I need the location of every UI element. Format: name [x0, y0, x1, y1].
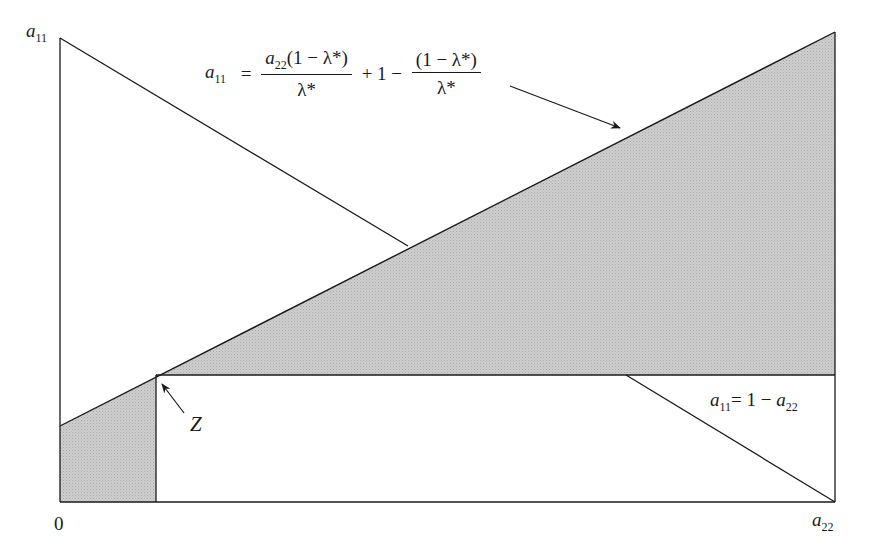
formula-middle-terms: + 1 − [357, 64, 407, 83]
fraction-2-denominator: λ* [412, 73, 481, 97]
formula-fraction-1: a22(1 − λ*) λ* [261, 48, 352, 99]
frac1-num-rest: (1 − λ*) [287, 47, 348, 68]
desc-lhs-var: a [710, 389, 720, 410]
shaded-region-lower-left [60, 377, 156, 502]
desc-rhs-var: a [776, 389, 786, 410]
formula-lhs-sub: 11 [215, 72, 227, 86]
point-z-text: Z [190, 412, 202, 436]
frac1-num-var: a [265, 47, 275, 68]
desc-rhs-sub: 22 [786, 400, 798, 414]
fraction-1-numerator: a22(1 − λ*) [261, 48, 352, 75]
fraction-1-denominator: λ* [261, 75, 352, 99]
x-axis-label: a22 [812, 510, 834, 533]
formula-fraction-2: (1 − λ*) λ* [412, 50, 481, 97]
rising-line-formula: a11 = a22(1 − λ*) λ* + 1 − (1 − λ*) λ* [205, 48, 481, 99]
x-axis-var: a [812, 509, 822, 530]
descending-line-formula: a11= 1 − a22 [710, 390, 798, 413]
y-axis-var: a [26, 20, 36, 41]
frac1-num-sub: 22 [275, 58, 287, 72]
formula-arrow [510, 86, 620, 128]
desc-rhs: = 1 − [731, 389, 776, 410]
formula-lhs-var: a [205, 61, 215, 82]
origin-text: 0 [54, 513, 64, 534]
y-axis-label: a11 [26, 21, 47, 44]
fraction-2-numerator: (1 − λ*) [412, 50, 481, 73]
z-arrow [162, 384, 184, 413]
point-z-label: Z [190, 414, 202, 435]
x-axis-sub: 22 [822, 520, 834, 534]
origin-label: 0 [54, 514, 64, 533]
formula-equals: = [236, 64, 257, 83]
y-axis-sub: 11 [36, 31, 48, 45]
desc-lhs-sub: 11 [720, 400, 732, 414]
